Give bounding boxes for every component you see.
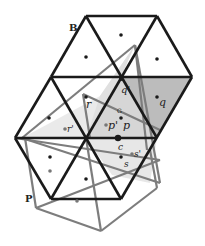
point-s	[119, 155, 123, 159]
center-point-lower	[84, 177, 88, 181]
label-P: P	[25, 193, 33, 204]
label-c: c	[118, 142, 123, 152]
label-s-prime: s'	[134, 149, 141, 159]
gray-point-lower-left	[48, 169, 52, 173]
label-p-prime: p'	[108, 119, 118, 132]
diagram-figure: B P G c q q' r r' p p' s s'	[0, 0, 205, 246]
label-q-prime: q'	[121, 84, 130, 95]
point-c	[115, 135, 121, 141]
label-B: B	[69, 22, 77, 33]
center-point-upper-right	[155, 57, 159, 61]
center-point-upper-left	[84, 55, 88, 59]
label-s: s	[124, 159, 129, 169]
shaded-regions	[22, 45, 192, 183]
label-q: q	[159, 96, 166, 109]
center-point-top	[119, 33, 123, 37]
label-G: G	[117, 107, 122, 114]
label-r: r	[86, 98, 92, 111]
label-p: p	[123, 119, 130, 132]
label-r-prime: r'	[67, 124, 74, 134]
triangular-lattice-diagram: B P G c q q' r r' p p' s s'	[0, 0, 205, 246]
point-r-black	[47, 116, 51, 120]
point-q-prime	[119, 77, 123, 81]
gray-point-bottom	[75, 199, 79, 203]
center-point-lower-left	[48, 155, 52, 159]
